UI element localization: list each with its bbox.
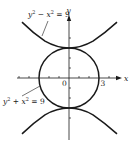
x-tick-label-3: 3 [101,79,106,88]
circle-equation-label: y2 + x2 = 9 [2,96,45,106]
x-axis-label: x [124,74,129,83]
hyperbola-lower-branch [22,108,117,134]
y-axis: y [66,6,72,140]
hyperbola-equation-label: y2 − x2 = 9 [27,9,70,19]
hyperbola-leader-line [42,21,48,36]
hyperbola-upper-branch [22,22,117,48]
conic-diagram: x 0 3 y y2 − x2 = 9 [0,0,138,148]
x-axis: x 0 3 [17,74,129,89]
circle-leader-line [22,86,40,96]
origin-label: 0 [62,79,67,88]
x-axis-arrow-icon [116,76,122,80]
